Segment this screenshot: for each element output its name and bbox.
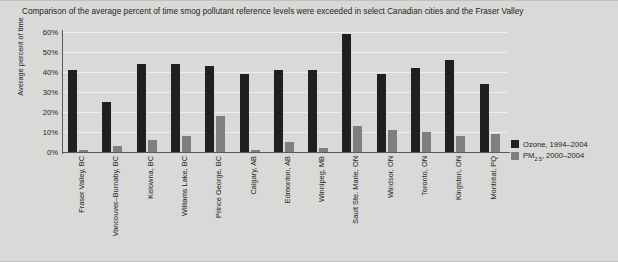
bar-group (96, 32, 130, 152)
x-axis-label: Kingston, ON (454, 156, 463, 200)
x-axis-label: Sault Ste. Marie, ON (351, 156, 360, 224)
legend-pm-prefix: PM (523, 151, 534, 160)
x-axis-label: Prince George, BC (214, 156, 223, 218)
legend-pm-subscript: 2.5 (534, 155, 542, 161)
bar-group (234, 32, 268, 152)
legend-swatch-ozone-icon (511, 140, 519, 148)
y-tick-40: 40% (16, 68, 58, 77)
bar-ozone (411, 68, 420, 152)
y-tick-10: 10% (16, 128, 58, 137)
bar-pm25 (182, 136, 191, 152)
bar-ozone (480, 84, 489, 152)
bar-ozone (377, 74, 386, 152)
bar-ozone (205, 66, 214, 152)
x-axis-label: Calgary, AB (249, 156, 258, 194)
legend-pm-suffix: , 2000–2004 (542, 151, 584, 160)
bar-ozone (274, 70, 283, 152)
bar-group (131, 32, 165, 152)
bar-group (302, 32, 336, 152)
bar-pm25 (216, 116, 225, 152)
bar-pm25 (388, 130, 397, 152)
bar-ozone (171, 64, 180, 152)
bar-pm25 (422, 132, 431, 152)
bar-ozone (240, 74, 249, 152)
x-axis-label: Winnipeg, MB (317, 156, 326, 202)
y-tick-50: 50% (16, 48, 58, 57)
bar-ozone (445, 60, 454, 152)
bar-group (474, 32, 508, 152)
bar-ozone (308, 70, 317, 152)
bar-pm25 (251, 150, 260, 152)
x-axis-label: Edmonton, AB (283, 156, 292, 203)
y-tick-20: 20% (16, 108, 58, 117)
chart-page: Comparison of the average percent of tim… (0, 0, 618, 262)
chart-title: Comparison of the average percent of tim… (22, 6, 602, 17)
y-tick-0: 0% (16, 148, 58, 157)
bar-ozone (137, 64, 146, 152)
bar-pm25 (456, 136, 465, 152)
bar-pm25 (353, 126, 362, 152)
chart-legend: Ozone, 1994–2004 PM2.5, 2000–2004 (511, 139, 588, 163)
x-axis-labels: Fraser Valley, BCVancouver–Burnaby, BCKe… (62, 156, 508, 246)
x-axis-label: Windsor, ON (386, 156, 395, 198)
bar-group (336, 32, 370, 152)
bar-pm25 (79, 150, 88, 152)
bar-groups (62, 32, 508, 152)
bar-ozone (102, 102, 111, 152)
bar-pm25 (148, 140, 157, 152)
bar-pm25 (113, 146, 122, 152)
bar-pm25 (491, 134, 500, 152)
x-axis-label: Vancouver–Burnaby, BC (111, 156, 120, 236)
x-axis-label: Fraser Valley, BC (77, 156, 86, 213)
bar-ozone (342, 34, 351, 152)
x-axis-label: Williams Lake, BC (180, 156, 189, 216)
y-tick-60: 60% (16, 28, 58, 37)
legend-label-pm25: PM2.5, 2000–2004 (523, 151, 584, 162)
bar-group (371, 32, 405, 152)
x-axis-label: Montréal, PQ (489, 156, 498, 200)
x-axis-label: Toronto, ON (420, 156, 429, 196)
bar-ozone (68, 70, 77, 152)
bar-group (165, 32, 199, 152)
bar-group (62, 32, 96, 152)
y-tick-30: 30% (16, 88, 58, 97)
y-axis-ticks: 60% 50% 40% 30% 20% 10% 0% (12, 32, 58, 152)
bar-group (268, 32, 302, 152)
bar-pm25 (319, 148, 328, 152)
legend-label-ozone: Ozone, 1994–2004 (523, 140, 588, 149)
legend-item-pm25: PM2.5, 2000–2004 (511, 151, 588, 161)
legend-item-ozone: Ozone, 1994–2004 (511, 139, 588, 149)
bar-pm25 (285, 142, 294, 152)
bar-group (199, 32, 233, 152)
bar-group (439, 32, 473, 152)
bar-group (405, 32, 439, 152)
x-axis-line (62, 152, 510, 153)
legend-swatch-pm25-icon (511, 152, 519, 160)
x-axis-label: Kelowna, BC (146, 156, 155, 199)
